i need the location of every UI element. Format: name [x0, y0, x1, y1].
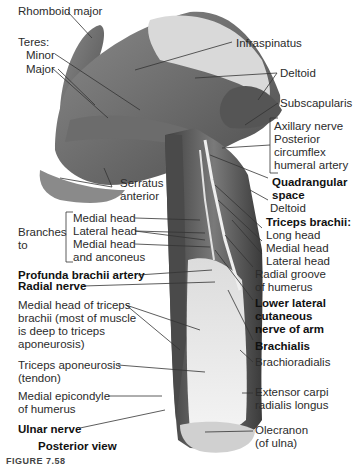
label-branch-lateral-head: Lateral head [73, 225, 137, 238]
label-serratus-2: anterior [120, 190, 159, 203]
label-lateral-head: Lateral head [266, 255, 330, 268]
label-lower-lateral-3: nerve of arm [255, 323, 324, 336]
label-triceps-apo-2: (tendon) [18, 372, 61, 385]
label-lower-lateral-2: cutaneous [255, 310, 313, 323]
figure-caption: FIGURE 7.58 [6, 456, 66, 464]
label-medial-head-triceps-1: Medial head of triceps [18, 299, 131, 312]
label-axillary-nerve: Axillary nerve [274, 120, 343, 133]
label-posterior-circumflex-1: Posterior [274, 133, 320, 146]
label-branches-1: Branches [18, 226, 67, 239]
view-label: Posterior view [38, 440, 117, 453]
label-deltoid-top: Deltoid [280, 67, 316, 80]
label-teres: Teres: [18, 36, 49, 49]
label-teres-major: Major [26, 63, 55, 76]
label-triceps-apo-1: Triceps aponeurosis [18, 359, 121, 372]
label-medial-epicondyle-2: of humerus [18, 403, 76, 416]
label-quadrangular-space-2: space [272, 189, 305, 202]
label-extensor-2: radialis longus [255, 399, 329, 412]
label-branches-2: to [18, 239, 28, 252]
label-extensor-1: Extensor carpi [255, 386, 329, 399]
label-teres-minor: Minor [26, 49, 55, 62]
label-branch-medial-anconeus-2: and anconeus [73, 251, 145, 264]
label-posterior-circumflex-2: circumflex [274, 146, 326, 159]
label-rhomboid-major: Rhomboid major [18, 5, 102, 18]
label-brachioradialis: Brachioradialis [255, 356, 330, 369]
label-serratus-1: Serratus [120, 177, 163, 190]
label-triceps-brachii: Triceps brachii: [266, 216, 351, 229]
label-brachialis: Brachialis [255, 340, 310, 353]
label-long-head: Long head [266, 229, 320, 242]
label-quadrangular-space-1: Quadrangular [272, 176, 347, 189]
label-radial-groove-1: Radial groove [255, 268, 326, 281]
label-radial-groove-2: of humerus [255, 281, 313, 294]
label-ulnar-nerve: Ulnar nerve [18, 423, 81, 436]
label-text: Rhomboid major [18, 5, 102, 17]
label-medial-head-triceps-4: aponeurosis) [18, 338, 84, 351]
label-medial-head-triceps-2: brachii (most of muscle [18, 312, 136, 325]
label-medial-head: Medial head [266, 242, 329, 255]
label-deltoid-lower: Deltoid [270, 202, 306, 215]
label-radial-nerve: Radial nerve [18, 280, 86, 293]
label-branch-medial-anconeus-1: Medial head [73, 238, 136, 251]
label-medial-head-triceps-3: is deep to triceps [18, 325, 105, 338]
label-medial-epicondyle-1: Medial epicondyle [18, 390, 110, 403]
label-branch-medial-head: Medial head [73, 212, 136, 225]
label-subscapularis: Subscapularis [280, 97, 352, 110]
label-olecranon-1: Olecranon [255, 424, 308, 437]
label-olecranon-2: (of ulna) [255, 437, 297, 450]
label-infraspinatus: Infraspinatus [236, 37, 302, 50]
label-lower-lateral-1: Lower lateral [255, 297, 326, 310]
label-posterior-circumflex-3: humeral artery [274, 159, 348, 172]
